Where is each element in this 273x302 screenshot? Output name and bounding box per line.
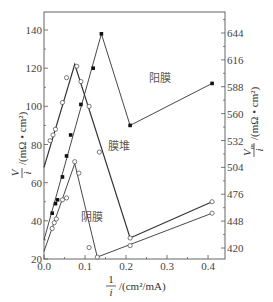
data-point-open [50,226,54,230]
x-axis-title-num: 1 [108,273,114,285]
data-point-open [53,127,57,131]
y-axis-title-num: V [9,168,21,176]
series-annotation: 膜堆 [108,140,130,153]
data-point-open [51,133,55,137]
data-point-filled [61,175,65,179]
data-point-open [75,64,79,68]
y2-axis-title-unit: /(mΩ • cm²) [248,86,261,140]
chart-canvas: 0.00.10.20.30.42040608010012014042044847… [0,0,273,302]
y-tick-label: 100 [26,100,43,112]
data-point-open [97,150,101,154]
x-tick-label: 0.4 [201,260,215,272]
y2-tick-label: 616 [227,54,244,66]
y-tick-label: 120 [26,62,43,74]
data-point-filled [210,82,214,86]
data-point-open [60,198,64,202]
series-2 [44,160,214,260]
data-point-open [77,171,81,175]
axis-ticks: 0.00.10.20.30.42040608010012014042044847… [26,20,245,272]
data-point-open [54,217,58,221]
series-annotation: 阴膜 [81,211,103,224]
y-axis-title-unit: /(mΩ • cm²) [16,111,29,165]
data-point-filled [50,211,54,215]
y-axis-title: V i /(mΩ • cm²) [9,111,33,178]
data-point-open [64,76,68,80]
y2-tick-label: 532 [227,135,244,147]
series-line [44,164,212,258]
data-point-filled [54,202,58,206]
data-point-open [128,236,132,240]
x-tick-label: 0.2 [119,260,133,272]
data-point-open [87,104,91,108]
x-axis-title-den: i [109,286,112,298]
data-point-open [87,245,91,249]
data-point-open [128,244,132,248]
data-point-open [210,200,214,204]
y2-axis-title-den: i [253,148,265,151]
data-point-open [210,211,214,215]
series-annotation: 阳膜 [149,72,171,85]
y2-tick-label: 420 [227,242,244,254]
y2-tick-label: 644 [227,27,244,39]
y-tick-label: 60 [31,177,43,189]
y2-tick-label: 560 [227,108,244,120]
data-point-open [64,196,68,200]
data-point-filled [65,154,69,158]
y2-tick-label: 448 [227,215,244,227]
data-point-open [95,255,99,259]
data-point-filled [56,198,60,202]
data-point-filled [79,103,83,107]
series-1 [44,32,214,240]
data-point-filled [69,133,73,137]
x-tick-label: 0.3 [160,260,174,272]
y-axis-title-den: i [21,171,33,174]
y2-tick-label: 504 [227,161,244,173]
data-point-open [79,79,83,83]
y-tick-label: 20 [31,253,43,265]
y2-tick-label: 476 [227,188,244,200]
series-line [44,34,212,240]
y2-tick-label: 588 [227,81,244,93]
x-axis-title: 1 i /(cm²/mA) [106,273,166,298]
data-point-filled [128,124,132,128]
x-axis-title-unit: /(cm²/mA) [119,280,166,293]
data-point-filled [91,66,95,70]
data-point-filled [100,32,104,36]
y-tick-label: 140 [26,24,43,36]
data-point-open [60,100,64,104]
series-labels: 阳膜膜堆阴膜 [81,72,171,224]
y2-axis-title: Vm i /(mΩ • cm²) [241,86,265,157]
y-tick-label: 80 [31,139,43,151]
x-tick-label: 0.1 [78,260,92,272]
data-point-open [48,139,52,143]
data-point-open [73,160,77,164]
y-tick-label: 40 [31,215,43,227]
